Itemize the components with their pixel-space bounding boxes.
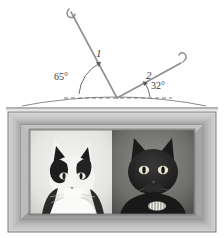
white-chest-spot (148, 201, 166, 210)
convex-mirror-surface (6, 97, 218, 110)
angle-32-label: 32° (151, 80, 165, 91)
white-and-black-cat (30, 130, 112, 214)
angle-65-label: 65° (54, 71, 68, 82)
figure-root: 1 2 65° 32° (0, 0, 224, 238)
framed-photograph (30, 130, 194, 214)
angle-65-arc (79, 62, 101, 94)
ray-1-line (67, 9, 117, 98)
ray-1-label: 1 (96, 47, 102, 59)
ray-diagram-group (6, 9, 218, 110)
black-cat (112, 130, 194, 214)
angle-32-arc (143, 81, 150, 97)
optics-diagram (0, 0, 224, 238)
picture-frame (8, 112, 216, 232)
